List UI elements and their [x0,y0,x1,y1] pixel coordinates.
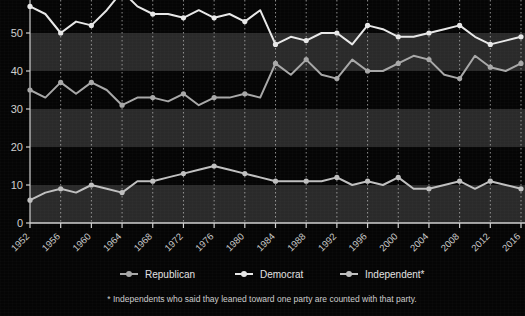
legend-label-independent[interactable]: Independent* [365,269,425,280]
data-point-republican-2008 [457,76,462,81]
xtick-label-1964: 1964 [101,231,124,254]
data-point-democrat-2016 [518,34,523,39]
chart-legend: RepublicanDemocratIndependent* [120,269,425,280]
data-point-democrat-1968 [150,11,155,16]
data-point-republican-1956 [58,80,63,85]
data-point-independent-1956 [58,186,63,191]
xtick-label-2004: 2004 [408,231,431,254]
data-point-republican-2000 [396,61,401,66]
chart-screenshot: 01020304050 1952195619601964196819721976… [0,0,525,316]
data-point-independent-2016 [518,186,523,191]
data-point-independent-1988 [304,179,309,184]
xtick-label-1968: 1968 [131,231,154,254]
data-point-republican-1980 [242,91,247,96]
data-point-democrat-1972 [181,15,186,20]
ytick-label-10: 10 [11,179,23,191]
data-point-independent-1972 [181,171,186,176]
data-point-independent-2008 [457,179,462,184]
xtick-label-1976: 1976 [193,231,216,254]
data-point-republican-1984 [273,61,278,66]
data-point-independent-1996 [365,179,370,184]
xtick-label-1988: 1988 [285,231,308,254]
party-identification-line-chart: 01020304050 1952195619601964196819721976… [0,0,525,316]
data-point-independent-1952 [27,198,32,203]
ytick-label-40: 40 [11,65,23,77]
value-bands [30,33,525,223]
chart-footnote: * Independents who said thay leaned towa… [107,294,416,304]
data-point-republican-1972 [181,91,186,96]
xtick-label-2016: 2016 [500,231,523,254]
data-point-democrat-1988 [304,38,309,43]
data-point-republican-1968 [150,95,155,100]
band-0-10 [30,185,525,223]
data-point-republican-2012 [488,65,493,70]
xtick-label-1952: 1952 [9,231,32,254]
ytick-label-50: 50 [11,27,23,39]
xtick-label-2008: 2008 [438,231,461,254]
data-point-republican-1992 [334,76,339,81]
chart-plot-area: 01020304050 1952195619601964196819721976… [0,0,525,316]
data-point-independent-1992 [334,175,339,180]
xtick-label-1972: 1972 [162,231,185,254]
ytick-label-20: 20 [11,141,23,153]
data-point-republican-1976 [212,95,217,100]
data-point-democrat-1996 [365,23,370,28]
data-point-independent-2004 [426,186,431,191]
data-point-democrat-2008 [457,23,462,28]
data-point-republican-2016 [518,61,523,66]
legend-label-democrat[interactable]: Democrat [260,269,304,280]
data-point-democrat-2012 [488,42,493,47]
data-point-republican-2004 [426,57,431,62]
data-point-democrat-1960 [89,23,94,28]
xtick-label-1960: 1960 [70,231,93,254]
data-point-democrat-2000 [396,34,401,39]
legend-marker-democrat [241,271,247,277]
xtick-label-2012: 2012 [469,231,492,254]
data-point-democrat-1952 [27,4,32,9]
ytick-label-30: 30 [11,103,23,115]
data-point-democrat-1984 [273,42,278,47]
data-point-republican-1952 [27,87,32,92]
data-point-independent-2012 [488,179,493,184]
data-point-independent-1968 [150,179,155,184]
data-point-independent-2000 [396,175,401,180]
data-point-republican-1964 [119,103,124,108]
xtick-label-1980: 1980 [223,231,246,254]
data-point-independent-1960 [89,182,94,187]
band-20-30 [30,109,525,147]
data-point-independent-1964 [119,190,124,195]
ytick-label-0: 0 [17,217,23,229]
data-point-republican-1996 [365,68,370,73]
x-axis-ticks: 1952195619601964196819721976198019841988… [9,223,523,253]
xtick-label-1996: 1996 [346,231,369,254]
legend-label-republican[interactable]: Republican [145,269,195,280]
legend-marker-independent [346,271,352,277]
data-point-democrat-1976 [212,15,217,20]
data-point-independent-1980 [242,171,247,176]
data-point-democrat-1992 [334,30,339,35]
data-point-republican-1988 [304,57,309,62]
xtick-label-1984: 1984 [254,231,277,254]
data-point-independent-1984 [273,179,278,184]
data-point-independent-1976 [212,163,217,168]
data-point-democrat-1956 [58,30,63,35]
y-axis-ticks: 01020304050 [11,27,30,229]
data-point-republican-1960 [89,80,94,85]
data-point-democrat-2004 [426,30,431,35]
xtick-label-1992: 1992 [316,231,339,254]
legend-marker-republican [126,271,132,277]
xtick-label-1956: 1956 [39,231,62,254]
data-point-democrat-1980 [242,19,247,24]
xtick-label-2000: 2000 [377,231,400,254]
